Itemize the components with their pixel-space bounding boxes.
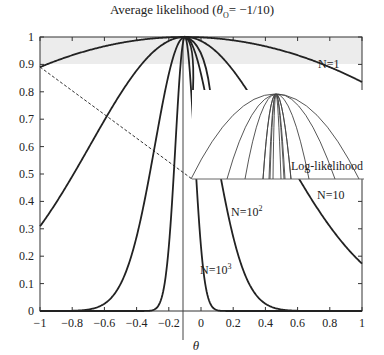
y-tick-label: 0.4	[19, 194, 34, 208]
y-tick-label: 0.2	[19, 249, 34, 263]
label-n100: N=102	[231, 204, 262, 219]
y-tick-label: 0.6	[19, 140, 34, 154]
y-tick-label: 0.8	[19, 85, 34, 99]
y-tick-label: 1	[28, 30, 34, 44]
x-tick-label: 0.4	[258, 316, 273, 330]
x-tick-label: −1	[34, 316, 47, 330]
dashed-tangent-line	[40, 67, 192, 179]
x-tick-label: 0	[198, 316, 204, 330]
x-tick-label: −0.4	[126, 316, 148, 330]
x-axis-ticks: −1−0.8−0.6−0.4−0.200.20.40.60.81	[34, 37, 365, 330]
likelihood-chart: 00.10.20.30.40.50.60.70.80.91 −1−0.8−0.6…	[0, 0, 384, 355]
x-tick-label: −0.2	[158, 316, 180, 330]
y-tick-label: 0.3	[19, 222, 34, 236]
label-log-likelihood: Log-likelihood	[291, 159, 363, 173]
x-tick-label: −0.6	[94, 316, 116, 330]
x-tick-label: 0.6	[290, 316, 305, 330]
x-tick-label: 0.8	[322, 316, 337, 330]
x-axis-label: θ	[193, 338, 200, 353]
y-tick-label: 0.5	[19, 167, 34, 181]
label-n1: N=1	[318, 57, 339, 71]
label-n1000: N=103	[200, 262, 231, 277]
y-tick-label: 0.9	[19, 57, 34, 71]
y-tick-label: 0.7	[19, 112, 34, 126]
label-n10: N=10	[317, 188, 344, 202]
x-tick-label: 0.2	[226, 316, 241, 330]
x-tick-label: 1	[359, 316, 365, 330]
x-tick-label: −0.8	[61, 316, 83, 330]
y-tick-label: 0.1	[19, 277, 34, 291]
